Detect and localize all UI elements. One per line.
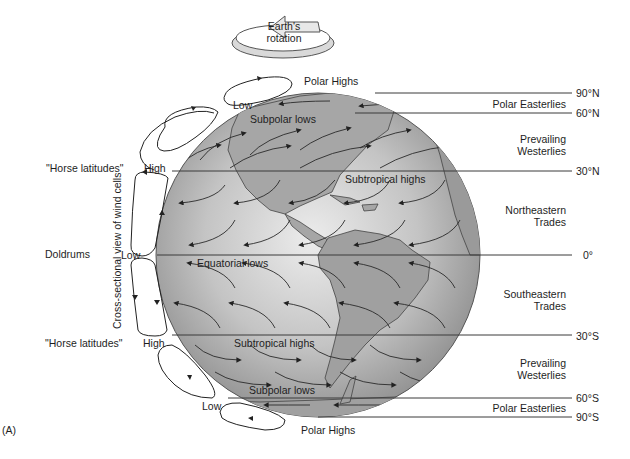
cell-high-north-label: High: [144, 162, 166, 174]
rotation-label-line2: rotation: [260, 32, 308, 44]
se-trades-line1: Southeastern: [482, 288, 566, 300]
westerlies-north-line2: Westerlies: [482, 145, 566, 157]
latitude-60s: 60°S: [576, 392, 599, 404]
cell-low-south-label: Low: [202, 400, 221, 412]
latitude-90n: 90°N: [576, 87, 599, 99]
se-trades-line2: Trades: [482, 300, 566, 312]
rotation-label: Earth's rotation: [260, 20, 308, 44]
subtropical-highs-south-label: Subtropical highs: [234, 337, 315, 349]
cell-low-north-label: Low: [233, 99, 252, 111]
cross-section-label: Cross-sectional view of wind cells: [111, 173, 123, 329]
wind-diagram-graphic: [0, 0, 630, 459]
polar-highs-south-label: Polar Highs: [301, 424, 355, 436]
latitude-30s: 30°S: [576, 330, 599, 342]
se-trades-label: Southeastern Trades: [482, 288, 566, 312]
subpolar-lows-north-label: Subpolar lows: [250, 113, 316, 125]
panel-label: (A): [2, 424, 16, 436]
latitude-0: 0°: [583, 249, 593, 261]
rotation-label-line1: Earth's: [260, 20, 308, 32]
westerlies-south-label: Prevailing Westerlies: [482, 357, 566, 381]
ne-trades-line2: Trades: [482, 216, 566, 228]
doldrums-label: Doldrums: [45, 248, 90, 260]
cell-low-equator-label: Low: [121, 249, 140, 261]
subtropical-highs-north-label: Subtropical highs: [345, 173, 426, 185]
latitude-30n: 30°N: [576, 165, 599, 177]
polar-easterlies-north-label: Polar Easterlies: [482, 98, 566, 110]
horse-latitudes-south-label: "Horse latitudes": [45, 337, 123, 349]
westerlies-south-line2: Westerlies: [482, 369, 566, 381]
polar-highs-north-label: Polar Highs: [304, 75, 358, 87]
polar-easterlies-south-label: Polar Easterlies: [482, 402, 566, 414]
westerlies-north-label: Prevailing Westerlies: [482, 133, 566, 157]
latitude-60n: 60°N: [576, 107, 599, 119]
subpolar-lows-south-label: Subpolar lows: [249, 384, 315, 396]
westerlies-south-line1: Prevailing: [482, 357, 566, 369]
latitude-90s: 90°S: [576, 411, 599, 423]
ne-trades-line1: Northeastern: [482, 204, 566, 216]
equatorial-lows-label: Equatorial lows: [197, 257, 268, 269]
westerlies-north-line1: Prevailing: [482, 133, 566, 145]
ne-trades-label: Northeastern Trades: [482, 204, 566, 228]
cell-high-south-label: High: [143, 337, 165, 349]
